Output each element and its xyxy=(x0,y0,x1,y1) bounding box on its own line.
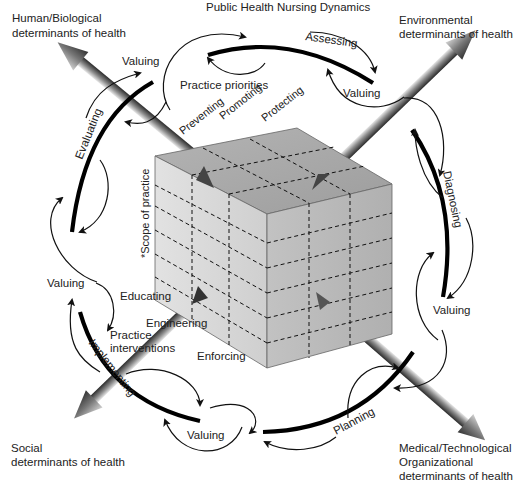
label-environmental: Environmental determinants of health xyxy=(399,14,513,40)
svg-text:Organizational: Organizational xyxy=(399,456,473,468)
svg-text:Human/Biological: Human/Biological xyxy=(12,12,102,24)
label-valuing-bottom: Valuing xyxy=(187,429,225,441)
label-engineering: Engineering xyxy=(146,317,207,329)
label-valuing-left: Valuing xyxy=(47,277,85,289)
label-human-biological: Human/Biological determinants of health xyxy=(12,12,126,39)
arc-diagnosing xyxy=(412,130,447,297)
label-social: Social determinants of health xyxy=(11,442,125,468)
diagram-title: Public Health Nursing Dynamics xyxy=(206,1,371,13)
public-health-nursing-diagram: Public Health Nursing Dynamics Human/Bio… xyxy=(0,0,520,489)
label-assessing: Assessing xyxy=(305,30,359,49)
label-valuing-right: Valuing xyxy=(433,304,471,316)
label-practice-interventions-2: interventions xyxy=(110,342,175,354)
arc-assessing xyxy=(208,47,373,83)
svg-text:Environmental: Environmental xyxy=(399,14,473,26)
svg-text:determinants of health: determinants of health xyxy=(11,456,125,468)
svg-text:determinants of health: determinants of health xyxy=(12,27,126,39)
svg-text:Medical/Technological: Medical/Technological xyxy=(399,442,512,454)
label-valuing-top-right: Valuing xyxy=(343,87,381,99)
svg-text:determinants of health: determinants of health xyxy=(399,28,513,40)
svg-text:Social: Social xyxy=(11,442,42,454)
label-valuing-top-left: Valuing xyxy=(122,55,160,67)
label-scope-of-practice: *Scope of practice xyxy=(139,169,151,258)
label-preventing: Preventing xyxy=(177,95,226,137)
label-educating: Educating xyxy=(120,290,171,302)
label-medical-technological: Medical/Technological Organizational det… xyxy=(399,442,513,482)
label-enforcing: Enforcing xyxy=(197,350,246,362)
practice-cube xyxy=(155,128,392,368)
label-practice-interventions-1: Practice xyxy=(110,329,152,341)
svg-text:determinants of health: determinants of health xyxy=(399,470,513,482)
